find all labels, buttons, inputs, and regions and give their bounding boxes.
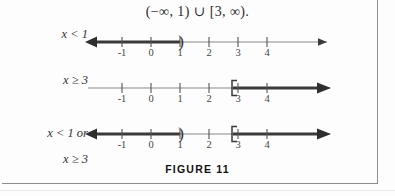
- tick-label: 1: [177, 139, 182, 150]
- tick-label: 1: [177, 93, 182, 104]
- tick-label: 2: [206, 93, 211, 104]
- tick-label: 4: [264, 47, 269, 58]
- tick-label: 1: [177, 47, 182, 58]
- tick-label-group-3: -1 0 1 2 3 4: [0, 139, 395, 155]
- number-line-row-2: x ≥ 3 -1 0 1 2 3 4: [0, 74, 395, 118]
- tick-label: 4: [264, 93, 269, 104]
- number-line-row-1: x < 1 ) -1 0 1 2 3 4: [0, 28, 395, 72]
- tick-label: 0: [148, 93, 153, 104]
- tick-label: 0: [148, 139, 153, 150]
- page-border-right: [377, 0, 378, 184]
- tick-label: 2: [206, 139, 211, 150]
- right-arrowhead-icon: [317, 128, 331, 139]
- tick-label: 3: [235, 93, 240, 104]
- tick-label: 4: [264, 139, 269, 150]
- figure-caption: FIGURE 11: [0, 163, 395, 175]
- tick-label-group-1: -1 0 1 2 3 4: [0, 47, 395, 63]
- interval-expression: (−∞, 1) ∪ [3, ∞).: [0, 3, 395, 20]
- tick-label: 2: [206, 47, 211, 58]
- page-border-bottom: [2, 183, 378, 184]
- tick-label: -1: [118, 93, 127, 104]
- right-arrowhead-icon: [318, 38, 327, 45]
- tick-label-group-2: -1 0 1 2 3 4: [0, 93, 395, 109]
- number-line-row-3: x < 1 or x ≥ 3 ) -1 0 1 2: [0, 120, 395, 164]
- left-arrowhead-icon: [85, 37, 97, 48]
- left-arrowhead-icon: [85, 129, 97, 140]
- tick-label: 3: [235, 139, 240, 150]
- right-arrowhead-icon: [317, 82, 331, 93]
- tick-label: 0: [148, 47, 153, 58]
- tick-label: -1: [118, 139, 127, 150]
- page-border-bottom-secondary: [0, 190, 395, 191]
- figure-container: (−∞, 1) ∪ [3, ∞). x < 1 ) -1 0 1 2: [0, 0, 395, 196]
- tick-label: -1: [118, 47, 127, 58]
- tick-label: 3: [235, 47, 240, 58]
